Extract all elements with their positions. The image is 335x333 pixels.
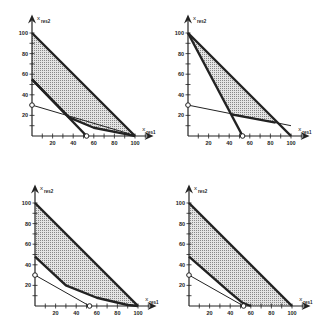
endpoint-circle-icon	[87, 304, 92, 309]
y-axis-label: x	[193, 15, 196, 21]
panel-top-right: 2040608010020406080100xres1xres2	[175, 14, 312, 146]
svg-text:res1: res1	[146, 130, 156, 135]
svg-text:res1: res1	[302, 130, 312, 135]
y-tick-label: 80	[178, 51, 184, 57]
x-tick-label: 100	[130, 140, 139, 146]
x-tick-label: 80	[268, 310, 274, 316]
x-tick-label: 40	[227, 310, 233, 316]
y-tick-label: 100	[176, 200, 185, 206]
x-tick-label: 80	[267, 140, 273, 146]
y-tick-label: 100	[175, 30, 184, 36]
x-axis-label: x	[299, 296, 302, 302]
x-axis-label: x	[142, 126, 145, 132]
x-tick-label: 100	[133, 310, 142, 316]
x-tick-label: 100	[286, 140, 295, 146]
x-tick-label: 40	[70, 140, 76, 146]
y-tick-label: 60	[179, 241, 185, 247]
endpoint-circle-icon	[187, 273, 192, 278]
endpoint-circle-icon	[240, 134, 245, 139]
y-tick-label: 20	[178, 112, 184, 118]
panel-top-left: 2040608010020406080100xres1xres2	[19, 14, 156, 146]
x-tick-label: 40	[226, 140, 232, 146]
x-tick-label: 20	[207, 310, 213, 316]
svg-text:res2: res2	[41, 19, 51, 24]
svg-text:res2: res2	[198, 189, 208, 194]
x-axis-label: x	[145, 296, 148, 302]
x-tick-label: 80	[111, 140, 117, 146]
boundary-line	[188, 33, 291, 136]
y-tick-label: 20	[22, 112, 28, 118]
y-tick-label: 60	[25, 241, 31, 247]
panel-bottom-right: 2040608010020406080100xres1xres2	[176, 184, 313, 316]
y-tick-label: 80	[22, 51, 28, 57]
x-tick-label: 60	[248, 310, 254, 316]
endpoint-circle-icon	[30, 103, 35, 108]
y-tick-label: 60	[22, 71, 28, 77]
endpoint-circle-icon	[33, 273, 38, 278]
svg-text:res2: res2	[44, 189, 54, 194]
y-tick-label: 40	[22, 92, 28, 98]
x-tick-label: 60	[91, 140, 97, 146]
y-tick-label: 100	[19, 30, 28, 36]
y-axis-label: x	[194, 185, 197, 191]
y-tick-label: 60	[178, 71, 184, 77]
x-axis-label: x	[298, 126, 301, 132]
svg-text:res2: res2	[197, 19, 207, 24]
x-tick-label: 20	[206, 140, 212, 146]
y-tick-label: 40	[25, 262, 31, 268]
x-tick-label: 80	[114, 310, 120, 316]
y-axis-label: x	[37, 15, 40, 21]
y-tick-label: 80	[25, 221, 31, 227]
panel-bottom-left: 2040608010020406080100xres1xres2	[22, 184, 159, 316]
x-tick-label: 60	[247, 140, 253, 146]
endpoint-circle-icon	[241, 304, 246, 309]
y-tick-label: 20	[25, 282, 31, 288]
x-tick-label: 40	[73, 310, 79, 316]
y-tick-label: 40	[179, 262, 185, 268]
constraint-diagram: 2040608010020406080100xres1xres220406080…	[0, 0, 335, 333]
svg-text:res1: res1	[149, 300, 159, 305]
x-tick-label: 20	[50, 140, 56, 146]
svg-text:res1: res1	[303, 300, 313, 305]
y-tick-label: 20	[179, 282, 185, 288]
endpoint-circle-icon	[84, 134, 89, 139]
y-axis-label: x	[40, 185, 43, 191]
x-tick-label: 60	[94, 310, 100, 316]
x-tick-label: 100	[287, 310, 296, 316]
y-tick-label: 100	[22, 200, 31, 206]
y-tick-label: 40	[178, 92, 184, 98]
x-tick-label: 20	[53, 310, 59, 316]
endpoint-circle-icon	[186, 103, 191, 108]
y-tick-label: 80	[179, 221, 185, 227]
